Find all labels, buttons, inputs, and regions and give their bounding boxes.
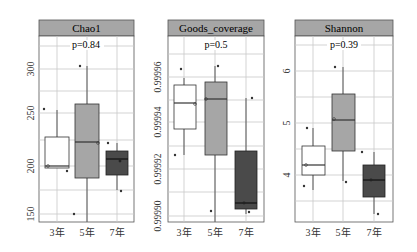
svg-text:3年: 3年 [50, 226, 65, 238]
y-axis-labels: 0.99996 0.99994 0.99992 0.99990 [153, 61, 163, 231]
panel-chao1: Chao1 p=0.84 [25, 20, 134, 238]
svg-text:4: 4 [281, 173, 292, 178]
svg-text:7年: 7年 [110, 226, 125, 238]
p-value: p=0.39 [330, 39, 358, 50]
svg-text:6: 6 [281, 69, 292, 74]
svg-text:0.99996: 0.99996 [153, 61, 163, 92]
panel-goods-coverage: Goods_coverage p=0.5 [153, 20, 264, 238]
svg-text:5年: 5年 [336, 226, 351, 238]
panel-title: Goods_coverage [179, 22, 253, 34]
svg-text:3年: 3年 [177, 226, 192, 238]
boxplot-figure: Chao1 p=0.84 [0, 0, 417, 252]
svg-text:200: 200 [25, 159, 36, 174]
svg-text:0.99994: 0.99994 [153, 106, 163, 137]
svg-text:5年: 5年 [80, 226, 95, 238]
svg-text:3年: 3年 [306, 226, 321, 238]
svg-text:250: 250 [25, 106, 36, 121]
svg-text:7年: 7年 [239, 226, 254, 238]
svg-text:5年: 5年 [208, 226, 223, 238]
x-axis-labels: 3年 5年 7年 [306, 226, 382, 238]
svg-text:7年: 7年 [367, 226, 382, 238]
panel-title: Shannon [325, 22, 364, 34]
x-axis-labels: 3年 5年 7年 [177, 226, 254, 238]
svg-text:0.99990: 0.99990 [153, 200, 163, 231]
panel-title: Chao1 [72, 22, 101, 34]
x-axis-labels: 3年 5年 7年 [50, 226, 125, 238]
panel-shannon: Shannon p=0.39 [281, 20, 393, 238]
y-axis-labels: 300 250 200 150 [25, 62, 36, 222]
p-value: p=0.84 [72, 39, 100, 50]
p-value: p=0.5 [204, 39, 227, 50]
svg-text:5: 5 [281, 121, 292, 126]
svg-text:300: 300 [25, 62, 36, 77]
svg-text:0.99992: 0.99992 [153, 153, 163, 184]
y-axis-labels: 6 5 4 [281, 69, 292, 178]
svg-text:150: 150 [25, 207, 36, 222]
